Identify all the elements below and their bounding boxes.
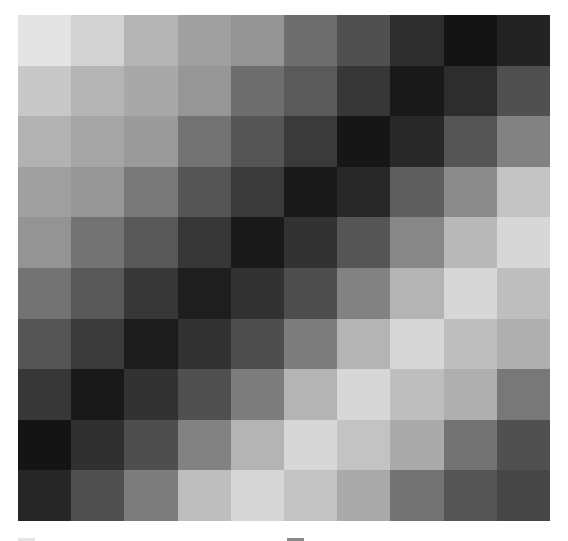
- heatmap-cell: [284, 66, 337, 117]
- heatmap-cell: [124, 15, 177, 66]
- heatmap-cell: [497, 319, 550, 370]
- heatmap-cell: [71, 167, 124, 218]
- heatmap-cell: [444, 217, 497, 268]
- heatmap-cell: [124, 470, 177, 521]
- heatmap-cell: [444, 319, 497, 370]
- heatmap-cell: [284, 167, 337, 218]
- heatmap-cell: [18, 167, 71, 218]
- heatmap-cell: [337, 217, 390, 268]
- heatmap-cell: [178, 268, 231, 319]
- heatmap-cell: [497, 15, 550, 66]
- heatmap-cell: [71, 116, 124, 167]
- heatmap-cell: [497, 420, 550, 471]
- heatmap-cell: [231, 268, 284, 319]
- heatmap-cell: [178, 217, 231, 268]
- heatmap-cell: [497, 268, 550, 319]
- heatmap-cell: [178, 66, 231, 117]
- heatmap-cell: [497, 369, 550, 420]
- heatmap-cell: [390, 470, 443, 521]
- heatmap-cell: [390, 167, 443, 218]
- heatmap-cell: [18, 369, 71, 420]
- heatmap-cell: [124, 420, 177, 471]
- heatmap-cell: [337, 420, 390, 471]
- heatmap-cell: [284, 217, 337, 268]
- heatmap-cell: [337, 319, 390, 370]
- heatmap-cell: [444, 15, 497, 66]
- heatmap-cell: [124, 369, 177, 420]
- heatmap-cell: [390, 116, 443, 167]
- heatmap-cell: [337, 268, 390, 319]
- heatmap-cell: [71, 15, 124, 66]
- heatmap-cell: [18, 217, 71, 268]
- heatmap-cell: [124, 319, 177, 370]
- heatmap-cell: [390, 319, 443, 370]
- heatmap-cell: [18, 470, 71, 521]
- heatmap-cell: [231, 369, 284, 420]
- heatmap-cell: [444, 167, 497, 218]
- heatmap-cell: [337, 470, 390, 521]
- heatmap-cell: [178, 116, 231, 167]
- heatmap-cell: [124, 167, 177, 218]
- heatmap-cell: [444, 420, 497, 471]
- heatmap-cell: [497, 470, 550, 521]
- heatmap-cell: [284, 268, 337, 319]
- heatmap-cell: [18, 268, 71, 319]
- heatmap-cell: [71, 470, 124, 521]
- heatmap-cell: [178, 470, 231, 521]
- heatmap-cell: [231, 319, 284, 370]
- heatmap-cell: [284, 319, 337, 370]
- heatmap-cell: [71, 319, 124, 370]
- heatmap-cell: [18, 66, 71, 117]
- heatmap-cell: [390, 369, 443, 420]
- heatmap-cell: [390, 268, 443, 319]
- heatmap-cell: [284, 470, 337, 521]
- heatmap-cell: [444, 116, 497, 167]
- heatmap-cell: [71, 217, 124, 268]
- heatmap-cell: [178, 167, 231, 218]
- heatmap-cell: [497, 217, 550, 268]
- heatmap-cell: [124, 268, 177, 319]
- heatmap-cell: [18, 420, 71, 471]
- heatmap-cell: [231, 15, 284, 66]
- heatmap-cell: [124, 66, 177, 117]
- heatmap-cell: [231, 66, 284, 117]
- heatmap-cell: [497, 66, 550, 117]
- heatmap-cell: [284, 420, 337, 471]
- heatmap-cell: [18, 15, 71, 66]
- heatmap-cell: [497, 167, 550, 218]
- heatmap-cell: [284, 369, 337, 420]
- heatmap-cell: [231, 167, 284, 218]
- heatmap-cell: [444, 369, 497, 420]
- heatmap-cell: [284, 15, 337, 66]
- heatmap-cell: [18, 319, 71, 370]
- heatmap-cell: [231, 116, 284, 167]
- heatmap-cell: [337, 116, 390, 167]
- heatmap-cell: [231, 217, 284, 268]
- heatmap-cell: [71, 268, 124, 319]
- heatmap-cell: [337, 369, 390, 420]
- heatmap-cell: [497, 116, 550, 167]
- heatmap-cell: [337, 66, 390, 117]
- heatmap-cell: [71, 420, 124, 471]
- heatmap-cell: [71, 369, 124, 420]
- heatmap-cell: [284, 116, 337, 167]
- heatmap-cell: [231, 470, 284, 521]
- heatmap-cell: [444, 470, 497, 521]
- heatmap-cell: [390, 66, 443, 117]
- heatmap-cell: [390, 420, 443, 471]
- heatmap-cell: [390, 217, 443, 268]
- heatmap-cell: [124, 217, 177, 268]
- heatmap-cell: [178, 420, 231, 471]
- heatmap-cell: [71, 66, 124, 117]
- heatmap-cell: [178, 319, 231, 370]
- heatmap-cell: [178, 15, 231, 66]
- heatmap-cell: [124, 116, 177, 167]
- heatmap-cell: [444, 66, 497, 117]
- heatmap-cell: [337, 167, 390, 218]
- heatmap-cell: [231, 420, 284, 471]
- grayscale-heatmap: [18, 15, 550, 521]
- heatmap-cell: [178, 369, 231, 420]
- heatmap-cell: [390, 15, 443, 66]
- heatmap-cell: [18, 116, 71, 167]
- heatmap-cell: [444, 268, 497, 319]
